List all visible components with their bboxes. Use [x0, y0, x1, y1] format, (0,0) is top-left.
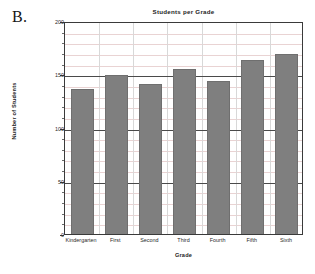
bar: [71, 89, 94, 234]
vertical-gridline: [270, 23, 271, 234]
chart-title: Students per Grade: [64, 8, 303, 15]
minor-gridline: [65, 66, 302, 67]
vertical-gridline: [236, 23, 237, 234]
minor-gridline: [65, 55, 302, 56]
plot-area: [64, 22, 303, 235]
x-axis-tick-labels: KindergartenFirstSecondThirdFourthFifthS…: [64, 237, 303, 249]
bar: [139, 84, 162, 234]
y-axis-tick-label: 100: [42, 126, 64, 132]
y-axis-tick-labels: 050100150200: [38, 22, 64, 235]
minor-gridline: [65, 44, 302, 45]
x-axis-tick-label: Sixth: [257, 237, 315, 244]
bar: [241, 60, 264, 234]
y-axis-tick-label: 200: [42, 19, 64, 25]
bar: [105, 75, 128, 234]
figure-panel: B. Students per Grade 050100150200 Numbe…: [0, 0, 315, 274]
minor-gridline: [65, 34, 302, 35]
vertical-gridline: [202, 23, 203, 234]
y-axis-tick-label: 150: [42, 72, 64, 78]
bar: [207, 81, 230, 234]
bar: [173, 69, 196, 234]
vertical-gridline: [133, 23, 134, 234]
bar: [275, 54, 298, 234]
y-axis-tick-marks: [64, 22, 70, 235]
panel-letter-label: B.: [12, 8, 27, 26]
vertical-gridline: [99, 23, 100, 234]
vertical-gridline: [167, 23, 168, 234]
y-axis-title: Number of Students: [11, 51, 17, 171]
y-axis-tick-label: 50: [42, 179, 64, 185]
x-axis-title: Grade: [64, 252, 303, 258]
